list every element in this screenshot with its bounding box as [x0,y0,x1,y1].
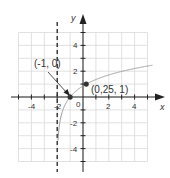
y-tick-label: -2 [70,119,78,128]
point-label-a: (-1, 0) [34,58,61,69]
x-tick-label: 4 [132,102,137,111]
point-minus1-0 [68,94,73,99]
function-graph: (-1, 0) (0,25, 1) x y 0 -4 -2 2 4 4 2 -2… [0,0,170,178]
x-tick-label: -4 [28,102,36,111]
point-label-b: (0,25, 1) [91,84,128,95]
x-tick-label: -2 [54,102,62,111]
y-axis-label: y [70,13,76,23]
x-axis-arrow-icon [155,94,165,101]
y-axis-arrow-icon [80,14,87,24]
point-0.25-1 [84,82,89,87]
x-axis-label: x [159,102,165,112]
x-tick-label: 2 [106,102,111,111]
y-tick-label: 2 [73,67,78,76]
y-tick-label: 4 [73,41,78,50]
origin-label: 0 [76,100,81,109]
y-tick-label: -4 [70,145,78,154]
